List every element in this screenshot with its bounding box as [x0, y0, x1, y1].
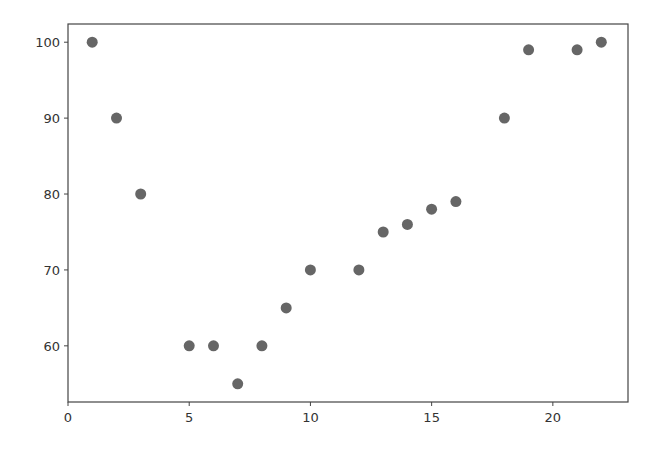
x-tick-label: 10	[302, 410, 319, 425]
data-point	[499, 113, 510, 124]
data-point	[111, 113, 122, 124]
data-point	[596, 37, 607, 48]
x-tick-label: 20	[545, 410, 562, 425]
data-point	[87, 37, 98, 48]
y-tick-label: 100	[35, 35, 60, 50]
data-point	[353, 264, 364, 275]
data-point	[523, 44, 534, 55]
data-point	[135, 189, 146, 200]
data-point	[305, 264, 316, 275]
data-point	[572, 44, 583, 55]
y-tick-label: 70	[43, 263, 60, 278]
data-point	[232, 378, 243, 389]
plot-background	[68, 24, 628, 402]
data-point	[281, 302, 292, 313]
y-axis: 60708090100	[35, 35, 68, 354]
scatter-chart: 05101520 60708090100	[0, 0, 657, 457]
data-point	[256, 340, 267, 351]
x-axis: 05101520	[64, 402, 561, 425]
data-point	[450, 196, 461, 207]
x-tick-label: 0	[64, 410, 72, 425]
data-point	[208, 340, 219, 351]
data-point	[184, 340, 195, 351]
y-tick-label: 60	[43, 339, 60, 354]
data-point	[402, 219, 413, 230]
data-point	[426, 204, 437, 215]
y-tick-label: 90	[43, 111, 60, 126]
y-tick-label: 80	[43, 187, 60, 202]
data-point	[378, 227, 389, 238]
x-tick-label: 15	[423, 410, 440, 425]
x-tick-label: 5	[185, 410, 193, 425]
